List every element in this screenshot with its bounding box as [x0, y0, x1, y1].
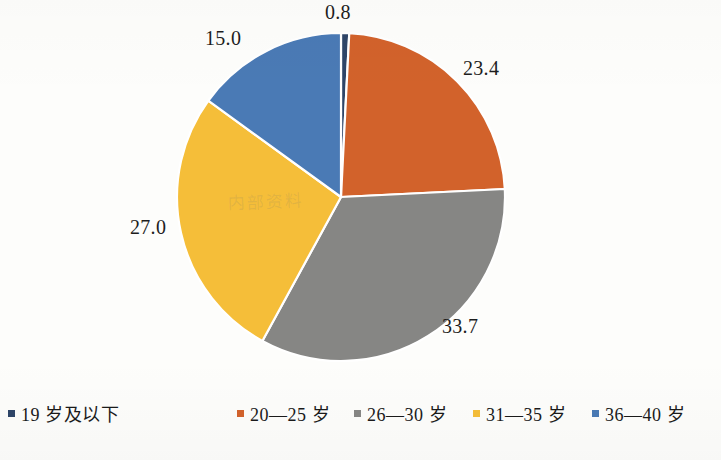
pie-svg [0, 0, 721, 390]
data-label-19-and-under: 0.8 [325, 1, 351, 24]
legend-swatch-icon [354, 410, 361, 417]
data-label-31-35: 27.0 [130, 216, 166, 239]
pie-plot-area: 内部资料 0.8 15.0 23.4 33.7 27.0 [0, 0, 721, 390]
legend-item-label: 31—35 岁 [486, 400, 566, 426]
legend-swatch-icon [8, 410, 15, 417]
legend-swatch-icon [473, 410, 480, 417]
legend-item-label: 26—30 岁 [367, 400, 447, 426]
legend-swatch-icon [237, 410, 244, 417]
legend-item-label: 36—40 岁 [605, 400, 685, 426]
data-label-26-30: 33.7 [442, 315, 478, 338]
legend-item[interactable]: 19 岁及以下 [8, 400, 119, 426]
data-label-20-25: 23.4 [463, 57, 499, 80]
data-label-36-40: 15.0 [205, 27, 241, 50]
legend-item[interactable]: 36—40 岁 [592, 400, 685, 426]
legend-item[interactable]: 31—35 岁 [473, 400, 566, 426]
legend-item-label: 20—25 岁 [250, 400, 330, 426]
chart-legend: 19 岁及以下20—25 岁26—30 岁31—35 岁36—40 岁 [0, 396, 721, 430]
legend-item-label: 19 岁及以下 [21, 400, 119, 426]
legend-item[interactable]: 20—25 岁 [237, 400, 330, 426]
legend-swatch-icon [592, 410, 599, 417]
legend-item[interactable]: 26—30 岁 [354, 400, 447, 426]
pie-chart-figure: 内部资料 0.8 15.0 23.4 33.7 27.0 19 岁及以下20—2… [0, 0, 721, 460]
pie-slice-group [177, 33, 505, 361]
